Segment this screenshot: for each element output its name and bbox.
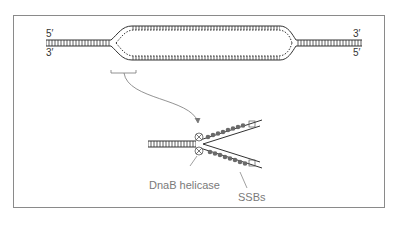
replication-bubble: [111, 26, 296, 60]
helicase-label: DnaB helicase: [149, 179, 220, 191]
left-top-label: 5′: [46, 29, 53, 39]
ssb-label: SSBs: [238, 191, 266, 203]
replication-fork: [148, 120, 262, 188]
right-top-label: 3′: [353, 29, 360, 39]
right-duplex: [296, 40, 362, 46]
left-bottom-label: 3′: [46, 48, 53, 58]
left-duplex: [46, 40, 111, 46]
dnab-helicase: [195, 133, 203, 155]
right-bottom-label: 5′: [353, 48, 360, 58]
zoom-bracket: [111, 70, 200, 123]
